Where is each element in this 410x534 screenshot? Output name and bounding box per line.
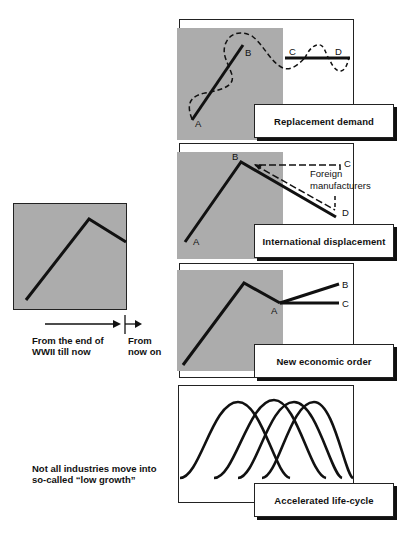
accelerated-life-cycle-title-box: Accelerated life-cycle (254, 483, 394, 517)
accelerated-life-cycle-curves (0, 0, 410, 534)
accelerated-life-cycle-title: Accelerated life-cycle (274, 495, 373, 506)
